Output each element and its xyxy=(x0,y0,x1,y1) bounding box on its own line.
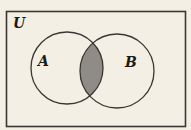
set-a-label: A xyxy=(36,53,49,69)
venn-diagram: U A B xyxy=(0,0,191,130)
set-b-label: B xyxy=(124,54,137,70)
venn-svg: U A B xyxy=(0,0,191,130)
universe-label: U xyxy=(13,15,26,31)
